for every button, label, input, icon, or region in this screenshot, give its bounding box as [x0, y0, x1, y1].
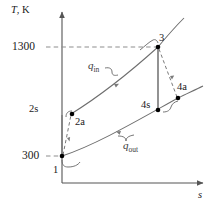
arrow-q-out-direction [116, 131, 121, 135]
x-axis-label: s [198, 190, 202, 201]
state-1-brace [62, 160, 80, 167]
flow-arrows [114, 84, 121, 135]
q-in-leader [105, 68, 118, 76]
state-label-2a: 2a [75, 117, 85, 128]
y-tick-label-300: 300 [22, 150, 39, 162]
q-in-label: qin [88, 60, 99, 74]
state-points [60, 45, 181, 159]
q-in-subscript: in [94, 65, 100, 74]
point-3 [156, 45, 161, 50]
state-label-4a: 4a [177, 82, 187, 93]
state-label-2s: 2s [29, 104, 38, 115]
point-4a [176, 96, 181, 101]
axis-group [62, 12, 203, 183]
state-label-4s: 4s [141, 100, 150, 111]
y-axis-unit: K [22, 4, 30, 15]
process-1-2a-actual [63, 115, 71, 155]
y-tick-label-1300: 1300 [12, 41, 35, 53]
state-label-3: 3 [159, 33, 164, 44]
point-2a [70, 112, 75, 117]
arrow-compression [67, 137, 70, 142]
compression-processes [62, 115, 71, 155]
q-out-label: qout [123, 140, 138, 154]
point-4s [156, 108, 161, 113]
arrow-q-in-direction [114, 84, 119, 88]
point-1 [60, 154, 65, 159]
q-out-subscript: out [129, 145, 139, 154]
process-3-4a-actual [159, 49, 177, 97]
state-label-1: 1 [53, 165, 58, 176]
y-axis-label: T, K [11, 5, 30, 16]
ts-diagram-figure: T, K s 1300 300 1 2s 2a 3 4s 4a qin qout [0, 0, 217, 208]
state-3-brace [140, 40, 158, 50]
